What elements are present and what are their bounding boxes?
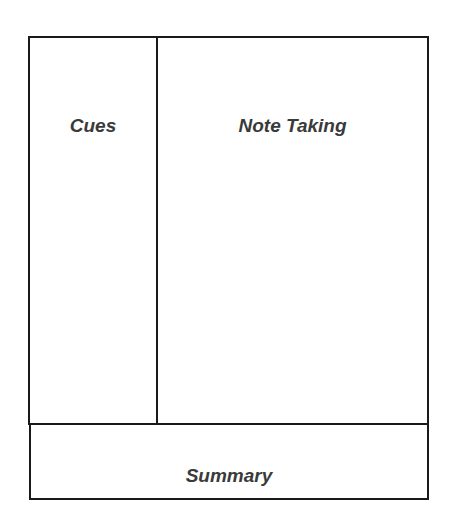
note-taking-section xyxy=(156,36,429,425)
summary-section xyxy=(29,423,429,500)
cues-section xyxy=(28,36,158,425)
note-taking-label: Note Taking xyxy=(156,115,429,137)
summary-label: Summary xyxy=(29,465,429,487)
cues-label: Cues xyxy=(28,115,158,137)
